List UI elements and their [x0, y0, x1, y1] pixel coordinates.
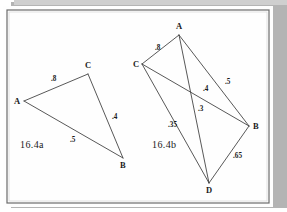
figure-page: A C B .8 .4 .5 16.4a A C B D .8 .5 .4 .3…: [0, 0, 287, 212]
edge-weight-d-b: .65: [233, 152, 242, 160]
edge-weight-a-b: .5: [70, 136, 76, 144]
edge-weight-c-b: .4: [203, 85, 209, 93]
node-label-d: D: [206, 185, 212, 195]
edge-weight-c-b: .4: [112, 113, 118, 121]
node-label-c: C: [85, 60, 91, 70]
graph-figure-canvas: A C B .8 .4 .5 16.4a A C B D .8 .5 .4 .3…: [0, 0, 287, 212]
node-label-c: C: [133, 59, 139, 69]
edge-weight-c-d: .35: [168, 121, 177, 129]
node-label-a: A: [176, 21, 183, 31]
node-label-b: B: [253, 121, 259, 131]
paper-shadow-soft: [14, 0, 287, 5]
paper-sheet: [3, 6, 273, 207]
node-label-a: A: [14, 96, 21, 106]
edge-weight-a-b: .5: [225, 78, 231, 86]
edge-weight-c-a: .8: [155, 44, 161, 52]
node-label-b: B: [120, 160, 126, 170]
edge-weight-a-c: .8: [51, 75, 57, 83]
figure-caption-16-4b: 16.4b: [152, 139, 177, 150]
edge-weight-a-d: .3: [198, 105, 204, 113]
figure-caption-16-4a: 16.4a: [20, 139, 44, 150]
